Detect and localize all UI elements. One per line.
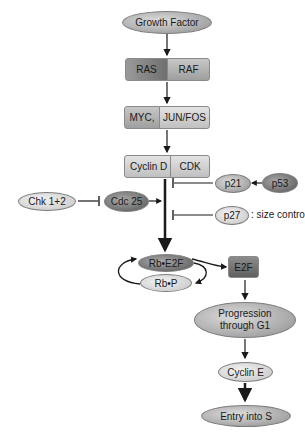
e2f-label: E2F xyxy=(234,262,252,273)
cdc25-node: Cdc 25 xyxy=(104,191,149,212)
entry-into-s-node: Entry into S xyxy=(201,405,291,427)
rb-e2f-node: Rb•E2F xyxy=(138,254,194,272)
cdk-node: CDK xyxy=(170,155,210,178)
raf-node: RAF xyxy=(167,58,210,81)
size-control-label: : size control xyxy=(251,209,305,220)
myc-label: MYC, xyxy=(130,112,155,123)
p53-label: p53 xyxy=(272,178,289,189)
jun-fos-label: JUN/FOS xyxy=(163,112,206,123)
chk-label: Chk 1+2 xyxy=(28,196,66,207)
rb-e2f-label: Rb•E2F xyxy=(149,258,184,269)
rb-p-node: Rb•P xyxy=(140,274,192,292)
cyclin-d-label: Cyclin D xyxy=(130,161,167,172)
cyclin-e-node: Cyclin E xyxy=(218,362,273,382)
progression-label-line1: Progression xyxy=(218,308,271,320)
progression-node: Progression through G1 xyxy=(194,302,296,338)
cyclin-e-label: Cyclin E xyxy=(227,367,264,378)
rb-p-label: Rb•P xyxy=(155,278,178,289)
arrow-rbe2f-rbp xyxy=(194,263,206,283)
arrow-rbp-rbe2f xyxy=(118,259,140,284)
p27-node: p27 xyxy=(215,206,249,225)
raf-label: RAF xyxy=(179,64,199,75)
myc-node: MYC, xyxy=(124,106,160,129)
jun-fos-node: JUN/FOS xyxy=(159,106,210,129)
entry-into-s-label: Entry into S xyxy=(220,411,272,422)
cdc25-label: Cdc 25 xyxy=(111,196,143,207)
progression-label-line2: through G1 xyxy=(220,320,270,332)
growth-factor-node: Growth Factor xyxy=(122,11,212,34)
e2f-node: E2F xyxy=(228,256,259,278)
p27-label: p27 xyxy=(224,210,241,221)
cdk-label: CDK xyxy=(179,161,200,172)
p21-label: p21 xyxy=(225,178,242,189)
arrow-rb-e2f xyxy=(192,259,226,267)
ras-node: RAS xyxy=(125,58,168,81)
growth-factor-label: Growth Factor xyxy=(135,17,198,28)
chk-node: Chk 1+2 xyxy=(18,192,76,211)
p21-node: p21 xyxy=(215,174,251,193)
cyclin-d-node: Cyclin D xyxy=(124,155,171,178)
ras-label: RAS xyxy=(136,64,157,75)
p53-node: p53 xyxy=(262,173,298,193)
